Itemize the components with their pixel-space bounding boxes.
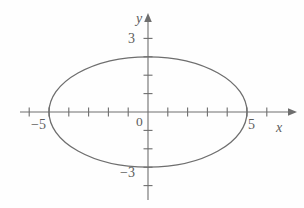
x-axis-label: x (276, 121, 282, 135)
y-tick-label-neg3: −3 (120, 166, 135, 180)
y-axis-label: y (136, 12, 142, 26)
x-tick-label-neg5: −5 (31, 118, 46, 132)
y-tick-label-3: 3 (128, 32, 135, 46)
ellipse-figure: y x 0 3 −3 5 −5 (0, 0, 304, 208)
plot-canvas (0, 0, 304, 208)
y-axis-arrow-icon (144, 13, 152, 22)
x-tick-label-5: 5 (248, 118, 255, 132)
x-axis-arrow-icon (288, 108, 297, 116)
origin-label: 0 (136, 115, 143, 129)
